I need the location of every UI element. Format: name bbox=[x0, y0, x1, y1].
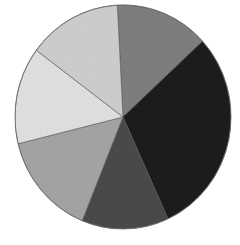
pie-chart bbox=[0, 0, 240, 245]
pie-slices bbox=[15, 5, 231, 229]
